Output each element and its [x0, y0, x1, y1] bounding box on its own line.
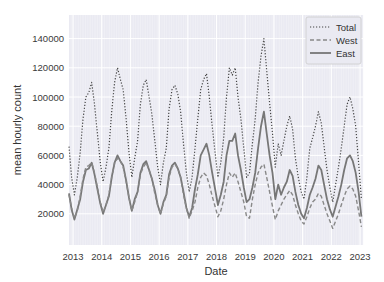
x-tick-label: 2017	[177, 251, 198, 262]
y-tick-label: 140000	[32, 33, 64, 44]
x-tick-label: 2022	[321, 251, 342, 262]
x-tick-label: 2023	[349, 251, 370, 262]
x-tick-label: 2021	[292, 251, 313, 262]
x-axis-ticks: 2013201420152016201720182019202020212022…	[62, 251, 370, 262]
x-tick-label: 2016	[149, 251, 170, 262]
x-tick-label: 2013	[62, 251, 83, 262]
legend: Total West East	[306, 17, 361, 64]
x-tick-label: 2014	[91, 251, 112, 262]
y-tick-label: 120000	[32, 62, 64, 73]
x-tick-label: 2020	[263, 251, 284, 262]
legend-total-label: Total	[336, 22, 356, 33]
x-tick-label: 2015	[120, 251, 141, 262]
x-tick-label: 2018	[206, 251, 227, 262]
x-axis-label: Date	[204, 265, 227, 277]
y-axis-ticks: 20000400006000080000100000120000140000	[32, 33, 64, 219]
y-tick-label: 80000	[38, 121, 64, 132]
y-tick-label: 60000	[38, 150, 64, 161]
legend-east-label: East	[336, 48, 355, 59]
time-series-chart: 2013201420152016201720182019202020212022…	[0, 0, 384, 282]
y-axis-label: mean hourly count	[11, 85, 23, 176]
legend-west-label: West	[336, 35, 358, 46]
y-tick-label: 20000	[38, 208, 64, 219]
y-tick-label: 100000	[32, 92, 64, 103]
y-tick-label: 40000	[38, 179, 64, 190]
x-tick-label: 2019	[235, 251, 256, 262]
